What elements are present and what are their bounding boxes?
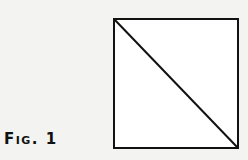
figure-label: Fig. 1 [4,130,58,148]
